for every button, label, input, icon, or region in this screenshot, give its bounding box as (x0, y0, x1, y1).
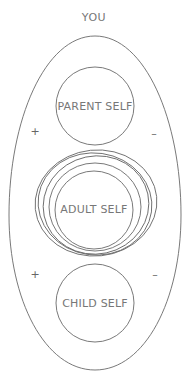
adult-self-node: ADULT SELF (30, 144, 162, 264)
minus-sign-upper: – (151, 127, 157, 140)
child-self-node: CHILD SELF (56, 264, 134, 342)
parent-self-node: PARENT SELF (56, 67, 134, 145)
parent-self-label: PARENT SELF (57, 100, 132, 113)
minus-sign-lower: – (152, 268, 158, 281)
plus-sign-lower: + (30, 268, 39, 281)
diagram-title: YOU (81, 11, 106, 24)
plus-sign-upper: + (30, 125, 39, 138)
child-self-label: CHILD SELF (62, 297, 128, 310)
adult-self-label: ADULT SELF (60, 203, 127, 216)
ego-state-diagram: YOU PARENT SELF ADULT SELF CHILD SELF + … (0, 0, 188, 385)
